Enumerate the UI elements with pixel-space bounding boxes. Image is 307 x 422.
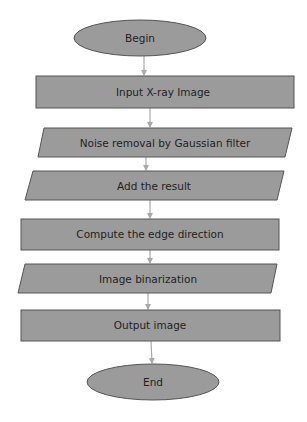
flowchart: Begin Input X-ray Image Noise removal by…: [0, 0, 307, 422]
arrow-output-to-end: [151, 341, 152, 363]
node-input: Input X-ray Image: [36, 76, 294, 108]
node-label: Begin: [125, 32, 155, 44]
node-add: Add the result: [25, 171, 284, 200]
node-label: Add the result: [117, 180, 191, 192]
node-label: End: [143, 376, 163, 388]
node-end: End: [87, 364, 219, 400]
node-noise: Noise removal by Gaussian filter: [38, 128, 292, 157]
node-label: Noise removal by Gaussian filter: [80, 137, 251, 149]
node-label: Output image: [114, 319, 187, 331]
node-label: Image binarization: [99, 273, 197, 285]
node-label: Input X-ray Image: [116, 86, 210, 98]
node-label: Compute the edge direction: [76, 228, 223, 240]
node-binarize: Image binarization: [18, 264, 277, 293]
node-edge: Compute the edge direction: [21, 219, 279, 250]
node-output: Output image: [21, 310, 280, 341]
node-begin: Begin: [74, 20, 206, 56]
